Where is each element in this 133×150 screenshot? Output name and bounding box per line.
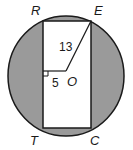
label-13: 13 — [59, 40, 73, 54]
label-o: O — [67, 74, 77, 89]
label-t: T — [30, 133, 39, 148]
label-c: C — [90, 133, 100, 148]
diagram-canvas: R E T C O 13 5 — [0, 0, 133, 150]
label-r: R — [31, 3, 40, 18]
label-5: 5 — [52, 76, 59, 90]
label-e: E — [94, 3, 103, 18]
